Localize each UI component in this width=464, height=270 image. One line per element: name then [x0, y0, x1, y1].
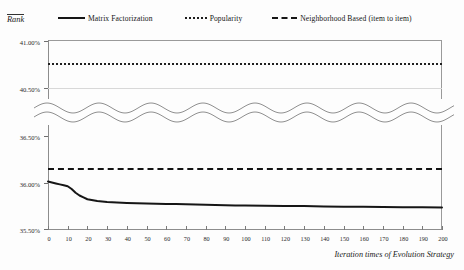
legend-item-popularity: Popularity — [185, 14, 243, 23]
y-tick-label: 41.00% — [20, 39, 40, 46]
chart-figure: Matrix Factorization Popularity Neighbor… — [0, 0, 464, 270]
series-line-matrix-factorization — [48, 40, 442, 230]
x-tick-label: 10 — [66, 235, 72, 242]
x-tick-label: 0 — [47, 235, 50, 242]
x-tick-label: 90 — [223, 235, 229, 242]
x-tick-label: 130 — [300, 235, 309, 242]
y-tick-label: 36.50% — [20, 134, 40, 141]
legend-swatch-dashed-icon — [272, 17, 297, 19]
x-tick-label: 170 — [379, 235, 388, 242]
x-axis-title: Iteration times of Evolution Strategy — [334, 250, 454, 259]
x-tick-label: 150 — [340, 235, 349, 242]
y-tick-label: 40.50% — [20, 86, 40, 93]
x-tick-label: 50 — [144, 235, 150, 242]
x-tick-label: 180 — [399, 235, 408, 242]
legend-label-matrix-factorization: Matrix Factorization — [88, 14, 153, 23]
y-axis-title: Rank — [7, 14, 24, 25]
y-tick-label: 35.50% — [20, 227, 40, 234]
x-tick-label: 160 — [360, 235, 369, 242]
x-tick-label: 190 — [419, 235, 428, 242]
plot-area: 41.00%40.50%36.50%36.00%35.50% 010203040… — [48, 40, 442, 230]
legend-item-matrix-factorization: Matrix Factorization — [58, 14, 153, 23]
x-tick-label: 20 — [85, 235, 91, 242]
y-tick-label: 36.00% — [20, 180, 40, 187]
x-tick-label: 200 — [438, 235, 447, 242]
x-tick-label: 60 — [164, 235, 170, 242]
x-tick: 200 — [442, 226, 443, 230]
chart-legend: Matrix Factorization Popularity Neighbor… — [58, 9, 458, 27]
x-tick-label: 40 — [125, 235, 131, 242]
x-tick-label: 70 — [184, 235, 190, 242]
axis-break-mask — [34, 99, 454, 125]
x-tick-label: 120 — [281, 235, 290, 242]
x-tick-label: 30 — [105, 235, 111, 242]
x-tick-label: 110 — [261, 235, 270, 242]
legend-label-popularity: Popularity — [210, 14, 243, 23]
legend-swatch-solid-icon — [58, 17, 85, 19]
x-tick-label: 100 — [241, 235, 250, 242]
legend-swatch-dotted-icon — [185, 17, 207, 19]
legend-label-neighborhood-based: Neighborhood Based (item to item) — [300, 14, 411, 23]
x-tick-label: 80 — [204, 235, 210, 242]
x-tick-label: 140 — [320, 235, 329, 242]
legend-item-neighborhood-based: Neighborhood Based (item to item) — [272, 14, 411, 23]
